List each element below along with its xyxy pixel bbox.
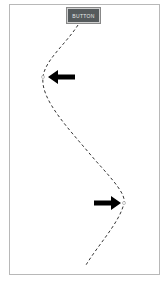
dashed-motion-path	[43, 25, 124, 265]
button[interactable]: BUTTON	[67, 8, 100, 23]
arrow-left-icon	[48, 70, 75, 84]
arrow-right-icon	[94, 196, 121, 210]
path-point-left	[42, 76, 45, 79]
diagram-overlay	[0, 0, 166, 282]
path-point-right	[123, 202, 126, 205]
